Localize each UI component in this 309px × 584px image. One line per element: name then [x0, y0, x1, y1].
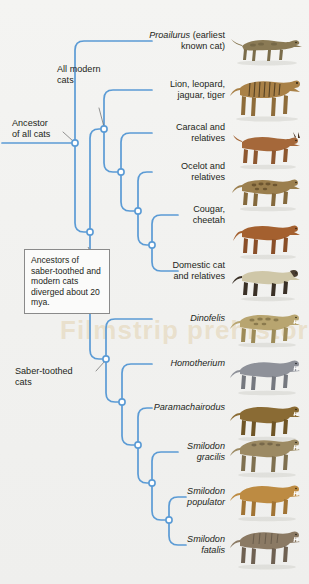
node-ancestor-of-all-cats [72, 140, 78, 146]
tip-label-proailurus-qualifier2: known cat) [181, 41, 225, 51]
tip-label-proailurus-genus: Proailurus [149, 30, 190, 40]
animal-dinofelis [228, 304, 306, 348]
branch-to-divergence [75, 143, 90, 232]
animal-smilodon-populator [228, 476, 306, 522]
branch-to-modern-cats [90, 129, 104, 232]
tip-label-dinofelis: Dinofelis [130, 313, 225, 324]
tip-label-paramachairodus: Paramachairodus [110, 402, 225, 413]
node-modern-3 [149, 242, 155, 248]
leader-saber-toothed-cats [96, 361, 105, 371]
node-divergence [87, 229, 93, 235]
tip-label-pantherines: Lion, leopard, jaguar, tiger [120, 79, 225, 101]
branch-paramachairodus [138, 408, 152, 445]
callout-divergence-note: Ancestors of saber-toothed and modern ca… [24, 249, 110, 314]
node-saber-toothed-cats [103, 356, 109, 362]
branch-dinofelis [106, 319, 152, 359]
node-modern-2 [135, 208, 141, 214]
tip-label-smilodon-populator: Smilodon populator [145, 486, 225, 508]
animal-tiger [228, 70, 306, 122]
animal-caracal [230, 126, 306, 170]
animal-spotted-wildcat [228, 26, 306, 66]
branch-modern-inner1 [104, 129, 121, 172]
node-saber-2 [135, 442, 141, 448]
animal-siamese-cat [230, 258, 306, 302]
tip-label-domestic-cat: Domestic cat and relatives [130, 260, 225, 282]
animal-cougar [230, 214, 306, 260]
tip-label-caracal: Caracal and relatives [120, 122, 225, 144]
animal-ocelot [230, 168, 306, 212]
tip-label-smilodon-gracilis: Smilodon gracilis [145, 441, 225, 463]
node-saber-4 [166, 517, 172, 523]
cladogram-figure: Filmstrip prehistoric [0, 0, 309, 584]
tip-label-homotherium: Homotherium [120, 358, 225, 369]
node-label-all-modern-cats: All modern cats [57, 64, 125, 86]
node-all-modern-cats [101, 126, 107, 132]
node-label-ancestor-of-all-cats: Ancestor of all cats [12, 118, 82, 140]
node-label-saber-toothed-cats: Saber-toothed cats [15, 366, 95, 388]
tip-label-proailurus-qualifier1: (earliest [190, 30, 225, 40]
branch-homotherium [122, 364, 152, 402]
animal-smilodon-gracilis [228, 430, 306, 478]
tip-label-ocelot: Ocelot and relatives [120, 161, 225, 183]
animal-smilodon-fatalis [228, 522, 306, 570]
animal-homotherium [228, 350, 306, 396]
tip-label-proailurus: Proailurus (earliestknown cat) [120, 30, 225, 52]
tip-label-smilodon-fatalis: Smilodon fatalis [145, 534, 225, 556]
tip-label-cougar-cheetah: Cougar, cheetah [145, 204, 225, 226]
